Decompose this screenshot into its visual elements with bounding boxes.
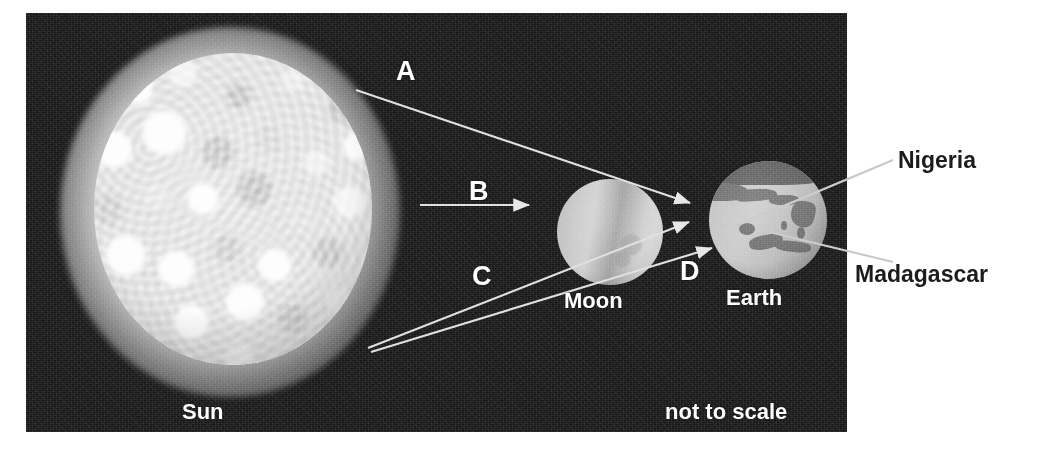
sun-disc <box>94 53 372 365</box>
callout-nigeria: Nigeria <box>898 147 976 174</box>
sun-limb-shading <box>94 53 372 365</box>
earth-landmass <box>735 188 778 203</box>
caption-moon: Moon <box>564 288 623 314</box>
callout-madagascar: Madagascar <box>855 261 988 288</box>
moon-body <box>557 179 663 285</box>
caption-sun: Sun <box>182 399 224 425</box>
earth-landmass <box>709 183 749 201</box>
sun-body <box>60 27 400 397</box>
note-not-to-scale: not to scale <box>665 399 787 425</box>
label-d: D <box>680 256 700 287</box>
earth-landmass <box>775 239 812 254</box>
earth-landmass-madagascar <box>797 227 805 239</box>
earth-landmass <box>789 199 818 229</box>
earth-landmass-nigeria <box>781 221 787 230</box>
earth-landmass <box>769 195 799 205</box>
label-b: B <box>469 176 489 207</box>
space-background-panel <box>26 13 847 432</box>
earth-body <box>709 161 827 279</box>
earth-landmass <box>739 223 755 235</box>
earth-landmass <box>748 232 784 252</box>
caption-earth: Earth <box>726 285 782 311</box>
earth-polar-shading <box>709 161 827 185</box>
diagram-canvas: A B C D Moon Earth Sun not to scale Nige… <box>0 0 1041 470</box>
label-a: A <box>396 56 416 87</box>
label-c: C <box>472 261 492 292</box>
